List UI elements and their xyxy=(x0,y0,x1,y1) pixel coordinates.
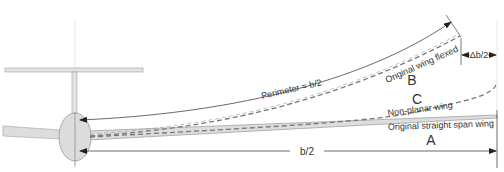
left-wing xyxy=(3,126,60,139)
tail-boom xyxy=(72,72,77,118)
flexed-label: Original wing flexed xyxy=(384,44,460,85)
half-span-label: b/2 xyxy=(300,146,314,157)
horizontal-stabilizer xyxy=(5,68,143,72)
delta-label: Δb/2 xyxy=(470,50,489,60)
wing-flex-diagram: b/2 Δb/2 Perimeter = b/2 Original wing f… xyxy=(0,0,504,172)
label-a: A xyxy=(426,132,436,148)
label-b: B xyxy=(407,72,416,88)
arc-end-tick xyxy=(446,15,461,37)
